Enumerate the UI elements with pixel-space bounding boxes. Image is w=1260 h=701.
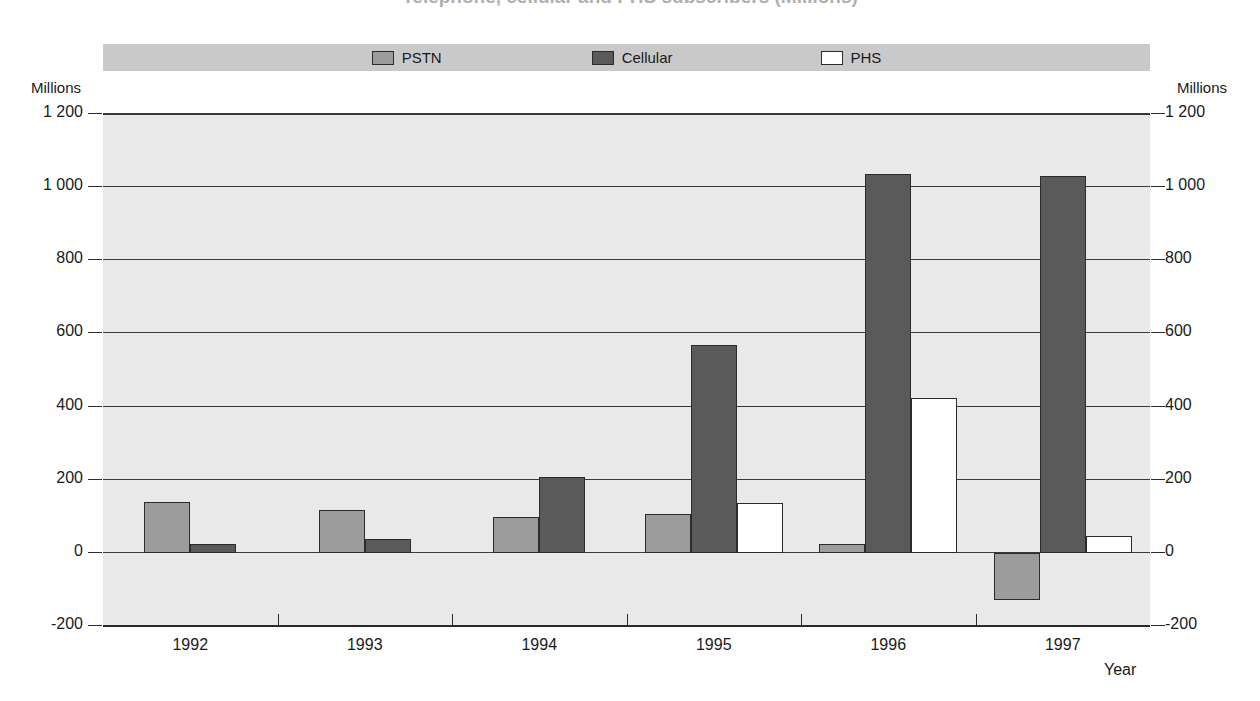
- y-axis-tick-label-left: 800: [13, 249, 83, 267]
- y-axis-tick-label-left: 1 000: [13, 176, 83, 194]
- y-axis-tick: [88, 406, 102, 407]
- y-axis-tick: [1151, 332, 1165, 333]
- gridline: [103, 479, 1150, 480]
- bar-cellular-1997: [1040, 176, 1086, 553]
- x-axis-tick: [452, 614, 453, 625]
- bar-cellular-1993: [365, 539, 411, 553]
- y-axis-tick-label-right: 800: [1165, 249, 1235, 267]
- y-axis-tick: [88, 552, 102, 553]
- y-axis-tick-label-right: 200: [1165, 469, 1235, 487]
- bar-phs-1996: [911, 398, 957, 553]
- gridline: [103, 113, 1150, 115]
- y-axis-tick: [88, 186, 102, 187]
- y-axis-tick: [1151, 113, 1165, 114]
- chart-title-strip: Telephone, cellular and PHS subscribers …: [0, 0, 1260, 14]
- x-axis-tick: [801, 614, 802, 625]
- gridline: [103, 332, 1150, 333]
- y-axis-tick: [1151, 625, 1165, 626]
- y-axis-tick-label-right: 0: [1165, 542, 1235, 560]
- y-axis-tick-label-left: 1 200: [13, 103, 83, 121]
- bar-pstn-1995: [645, 514, 691, 552]
- y-axis-tick-label-right: 400: [1165, 396, 1235, 414]
- x-axis-label-1997: 1997: [1023, 636, 1103, 654]
- x-axis-line: [103, 625, 1150, 627]
- y-axis-tick: [1151, 479, 1165, 480]
- y-axis-tick-label-left: 400: [13, 396, 83, 414]
- bar-pstn-1993: [319, 510, 365, 552]
- y-axis-tick: [1151, 186, 1165, 187]
- bar-cellular-1992: [190, 544, 236, 553]
- x-axis-label-1992: 1992: [150, 636, 230, 654]
- y-axis-unit-left: Millions: [31, 79, 81, 96]
- legend-label-cellular: Cellular: [622, 49, 673, 66]
- page-title: Telephone, cellular and PHS subscribers …: [0, 0, 1260, 8]
- y-axis-unit-right: Millions: [1177, 79, 1227, 96]
- x-axis-label-1993: 1993: [325, 636, 405, 654]
- x-axis-tick: [976, 614, 977, 625]
- bar-pstn-1992: [144, 502, 190, 553]
- x-axis-title: Year: [1104, 661, 1136, 679]
- y-axis-tick-label-right: -200: [1165, 615, 1235, 633]
- bar-pstn-1994: [493, 517, 539, 552]
- y-axis-tick-label-left: 600: [13, 322, 83, 340]
- y-axis-tick-label-right: 1 200: [1165, 103, 1235, 121]
- y-axis-tick: [88, 479, 102, 480]
- y-axis-tick: [88, 113, 102, 114]
- bar-cellular-1996: [865, 174, 911, 553]
- legend-label-pstn: PSTN: [402, 49, 442, 66]
- bar-cellular-1994: [539, 477, 585, 553]
- gridline: [103, 186, 1150, 187]
- y-axis-tick-label-left: -200: [13, 615, 83, 633]
- x-axis-label-1996: 1996: [848, 636, 928, 654]
- bar-cellular-1995: [691, 345, 737, 552]
- gridline: [103, 259, 1150, 260]
- y-axis-tick: [1151, 259, 1165, 260]
- chart-legend: PSTN Cellular PHS: [103, 44, 1150, 71]
- legend-swatch-icon: [821, 51, 843, 65]
- y-axis-tick-label-left: 200: [13, 469, 83, 487]
- legend-item-phs: PHS: [821, 49, 882, 66]
- y-axis-tick-label-left: 0: [13, 542, 83, 560]
- legend-item-pstn: PSTN: [372, 49, 442, 66]
- chart-plot-area: 1 2001 2001 0001 00080080060060040040020…: [103, 114, 1150, 626]
- y-axis-tick: [88, 332, 102, 333]
- legend-swatch-icon: [592, 51, 614, 65]
- y-axis-tick: [88, 625, 102, 626]
- bar-pstn-1996: [819, 544, 865, 553]
- gridline: [103, 406, 1150, 407]
- y-axis-tick: [88, 259, 102, 260]
- legend-item-cellular: Cellular: [592, 49, 673, 66]
- x-axis-label-1994: 1994: [499, 636, 579, 654]
- bar-phs-1997: [1086, 536, 1132, 553]
- legend-label-phs: PHS: [851, 49, 882, 66]
- x-axis-tick: [278, 614, 279, 625]
- y-axis-tick-label-right: 600: [1165, 322, 1235, 340]
- y-axis-tick-label-right: 1 000: [1165, 176, 1235, 194]
- bar-phs-1995: [737, 503, 783, 552]
- bar-pstn-1997: [994, 553, 1040, 601]
- y-axis-tick: [1151, 552, 1165, 553]
- x-axis-label-1995: 1995: [674, 636, 754, 654]
- x-axis-tick: [627, 614, 628, 625]
- legend-swatch-icon: [372, 51, 394, 65]
- y-axis-tick: [1151, 406, 1165, 407]
